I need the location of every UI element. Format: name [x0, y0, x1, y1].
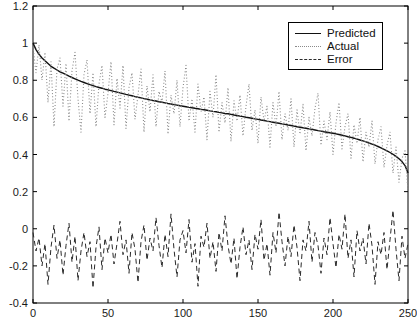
figure: 050100150200250-0.4-0.200.20.40.60.811.2… [0, 0, 417, 330]
predicted-line-sample [295, 33, 321, 34]
y-tick-label: 1 [22, 37, 28, 49]
x-tick-label: 150 [249, 307, 267, 319]
y-tick-label: 0 [22, 223, 28, 235]
y-tick-label: 0.6 [13, 111, 28, 123]
x-tick-label: 200 [324, 307, 342, 319]
y-tick-label: 1.2 [13, 0, 28, 12]
y-tick-label: 0.8 [13, 74, 28, 86]
x-tick-label: 0 [30, 307, 36, 319]
legend-entry-predicted: Predicted [295, 27, 376, 40]
legend-label-actual: Actual [327, 40, 359, 53]
legend-entry-actual: Actual [295, 40, 376, 53]
y-tick-label: 0.2 [13, 186, 28, 198]
series-line-error [33, 210, 408, 288]
y-tick-label: 0.4 [13, 149, 28, 161]
legend-label-predicted: Predicted [327, 27, 376, 40]
actual-line-sample [295, 46, 321, 47]
legend-box: Predicted Actual Error [288, 22, 383, 70]
y-tick-label: -0.4 [9, 297, 28, 309]
plot-series [33, 43, 408, 288]
legend-entry-error: Error [295, 53, 376, 66]
x-tick-label: 100 [174, 307, 192, 319]
error-line-sample [295, 59, 321, 60]
y-tick-label: -0.2 [9, 260, 28, 272]
x-tick-label: 250 [399, 307, 417, 319]
x-tick-label: 50 [102, 307, 114, 319]
legend-label-error: Error [327, 53, 353, 66]
